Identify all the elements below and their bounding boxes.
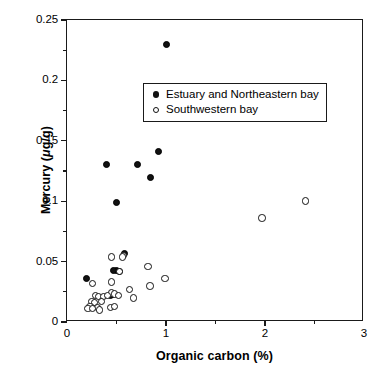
data-point [163, 41, 170, 48]
y-axis-minor-tick [63, 50, 67, 51]
x-axis-minor-tick [314, 320, 315, 324]
y-axis-minor-tick [63, 170, 67, 171]
y-axis-major-tick [61, 80, 67, 81]
x-axis-minor-tick [215, 320, 216, 324]
x-axis-minor-tick [116, 320, 117, 324]
data-point [302, 197, 310, 205]
data-point [111, 303, 119, 311]
data-point [108, 253, 116, 261]
y-axis-minor-tick [63, 110, 67, 111]
legend-label-estuary: Estuary and Northeastern bay [163, 89, 319, 101]
data-point [103, 161, 110, 168]
x-axis-title: Organic carbon (%) [66, 349, 363, 363]
data-point [119, 253, 127, 261]
y-axis-tick-label: 0.2 [42, 75, 58, 87]
data-point [126, 286, 134, 294]
legend-item-southwestern: Southwestern bay [149, 102, 319, 117]
data-point [96, 306, 104, 314]
y-axis-major-tick [61, 261, 67, 262]
y-axis-major-tick [61, 19, 67, 20]
plot-data-area [67, 20, 362, 320]
filled-circle-icon [149, 91, 163, 98]
x-axis-tick-label: 1 [163, 328, 169, 340]
y-axis-title-mu: μ [39, 149, 53, 157]
y-axis-tick-label: 0.25 [36, 14, 58, 26]
y-axis-tick-label: 0 [52, 316, 58, 328]
data-point [144, 263, 152, 271]
y-axis-title-suffix: g/g) [39, 126, 53, 149]
data-point [134, 161, 141, 168]
plot-frame: 00.050.10.150.20.25 0123 [66, 19, 363, 321]
scatter-plot-figure: 00.050.10.150.20.25 0123 Estuary and Nor… [0, 0, 385, 379]
data-point [147, 174, 154, 181]
legend-item-estuary: Estuary and Northeastern bay [149, 87, 319, 102]
y-axis-title: Mercury (μg/g) [39, 126, 53, 214]
x-axis-tick-label: 2 [262, 328, 268, 340]
y-axis-major-tick [61, 140, 67, 141]
x-axis-major-tick [264, 320, 265, 326]
data-point [161, 275, 169, 283]
x-axis-major-tick [165, 320, 166, 326]
x-axis-tick-label: 3 [361, 328, 367, 340]
y-axis-major-tick [61, 201, 67, 202]
y-axis-major-tick [61, 321, 67, 322]
y-axis-minor-tick [63, 291, 67, 292]
y-axis-minor-tick [63, 231, 67, 232]
data-point [116, 268, 124, 276]
data-point [130, 294, 138, 302]
data-point [89, 280, 97, 288]
open-circle-icon [149, 107, 163, 113]
x-axis-tick-label: 0 [64, 328, 70, 340]
data-point [155, 148, 162, 155]
data-point [113, 199, 120, 206]
data-point [146, 282, 154, 290]
legend: Estuary and Northeastern bay Southwester… [143, 83, 327, 122]
data-point [108, 278, 116, 286]
y-axis-title-prefix: Mercury ( [39, 157, 53, 214]
data-point [115, 292, 123, 300]
y-axis-tick-label: 0.05 [36, 256, 58, 268]
legend-label-southwestern: Southwestern bay [163, 104, 258, 116]
data-point [258, 214, 266, 222]
